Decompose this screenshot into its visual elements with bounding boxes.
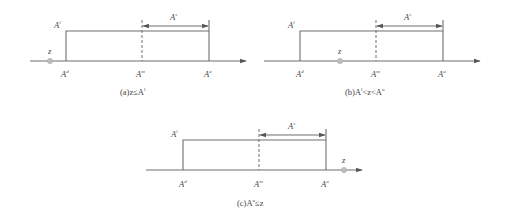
panel-b: z Al Ad Am Au As (b)Al<z<Au	[264, 12, 480, 97]
label-span: As	[287, 121, 295, 131]
z-label: z	[341, 155, 346, 165]
label-mid: Am	[253, 179, 263, 189]
label-span: As	[403, 12, 411, 22]
z-point	[337, 58, 342, 63]
panel-a: z Al Ad Am Au As (a)z≤Al	[30, 12, 246, 97]
label-right: Au	[437, 69, 446, 79]
z-label: z	[337, 46, 342, 56]
z-point	[341, 167, 346, 172]
label-span: As	[169, 12, 177, 22]
caption: (c)Au≤z	[237, 198, 264, 208]
panel-c: z Al Ad Am Au As (c)Au≤z	[146, 121, 362, 208]
label-right: Au	[320, 179, 329, 189]
label-top: Al	[53, 20, 61, 30]
label-left: Ad	[178, 179, 187, 189]
caption: (a)z≤Al	[120, 87, 146, 97]
label-left: Ad	[60, 69, 69, 79]
box-top-left	[183, 140, 326, 170]
z-point	[47, 58, 52, 63]
label-top: Al	[287, 20, 295, 30]
label-right: Au	[203, 69, 212, 79]
label-left: Ad	[295, 69, 304, 79]
label-mid: Am	[370, 69, 380, 79]
z-label: z	[47, 46, 52, 56]
label-top: Al	[170, 129, 178, 139]
label-mid: Am	[135, 69, 145, 79]
caption: (b)Al<z<Au	[345, 87, 385, 97]
box-top-left	[66, 31, 209, 61]
diagram-canvas: z Al Ad Am Au As (a)z≤Al z Al Ad Am Au A…	[0, 0, 509, 221]
box-top-left	[300, 31, 443, 61]
